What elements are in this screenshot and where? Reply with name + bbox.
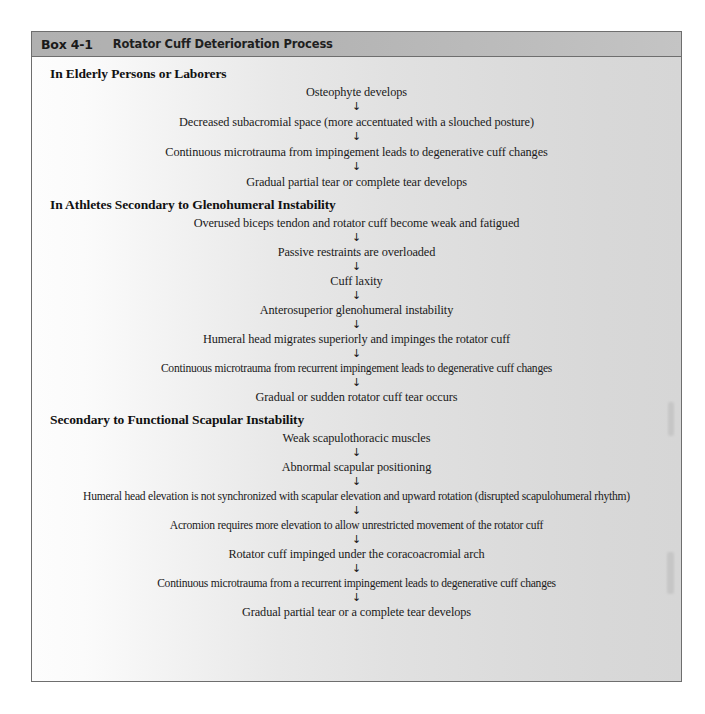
flow-step: Osteophyte develops (42, 85, 671, 100)
box-header: Box 4-1 Rotator Cuff Deterioration Proce… (32, 32, 681, 57)
down-arrow-icon: ↓ (42, 591, 671, 605)
flow-step: Continuous microtrauma from recurrent im… (42, 361, 671, 376)
flow-step: Gradual or sudden rotator cuff tear occu… (42, 390, 671, 405)
box-body: In Elderly Persons or LaborersOsteophyte… (32, 57, 681, 681)
flow-step: Overused biceps tendon and rotator cuff … (42, 216, 671, 231)
down-arrow-icon: ↓ (42, 376, 671, 390)
flow-step: Continuous microtrauma from impingement … (42, 145, 671, 160)
down-arrow-icon: ↓ (42, 130, 671, 144)
flow-step: Humeral head migrates superiorly and imp… (42, 332, 671, 347)
box-number-label: Box 4-1 (41, 37, 93, 52)
flow-step: Decreased subacromial space (more accent… (42, 115, 671, 130)
flowchart-sections: In Elderly Persons or LaborersOsteophyte… (42, 66, 671, 620)
page: Box 4-1 Rotator Cuff Deterioration Proce… (0, 0, 705, 714)
flow-step: Gradual partial tear or complete tear de… (42, 175, 671, 190)
flow-step: Humeral head elevation is not synchroniz… (42, 489, 671, 504)
flow-chain: Overused biceps tendon and rotator cuff … (42, 216, 671, 405)
down-arrow-icon: ↓ (42, 504, 671, 518)
flow-step: Continuous microtrauma from a recurrent … (42, 576, 671, 591)
figure-box: Box 4-1 Rotator Cuff Deterioration Proce… (31, 31, 682, 682)
down-arrow-icon: ↓ (42, 289, 671, 303)
flow-step: Rotator cuff impinged under the coracoac… (42, 547, 671, 562)
section-heading: In Elderly Persons or Laborers (50, 66, 671, 82)
flow-step: Abnormal scapular positioning (42, 460, 671, 475)
flow-step: Passive restraints are overloaded (42, 245, 671, 260)
flow-step: Acromion requires more elevation to allo… (42, 518, 671, 533)
section-heading: Secondary to Functional Scapular Instabi… (50, 412, 671, 428)
flow-step: Gradual partial tear or a complete tear … (42, 605, 671, 620)
flow-chain: Osteophyte develops↓Decreased subacromia… (42, 85, 671, 190)
flow-step: Weak scapulothoracic muscles (42, 431, 671, 446)
flow-section: Secondary to Functional Scapular Instabi… (42, 412, 671, 620)
flow-section: In Elderly Persons or LaborersOsteophyte… (42, 66, 671, 190)
down-arrow-icon: ↓ (42, 260, 671, 274)
down-arrow-icon: ↓ (42, 562, 671, 576)
flow-step: Cuff laxity (42, 274, 671, 289)
down-arrow-icon: ↓ (42, 160, 671, 174)
flow-step: Anterosuperior glenohumeral instability (42, 303, 671, 318)
down-arrow-icon: ↓ (42, 318, 671, 332)
down-arrow-icon: ↓ (42, 347, 671, 361)
flow-chain: Weak scapulothoracic muscles↓Abnormal sc… (42, 431, 671, 620)
down-arrow-icon: ↓ (42, 231, 671, 245)
down-arrow-icon: ↓ (42, 475, 671, 489)
box-title: Rotator Cuff Deterioration Process (113, 37, 333, 51)
down-arrow-icon: ↓ (42, 446, 671, 460)
section-heading: In Athletes Secondary to Glenohumeral In… (50, 197, 671, 213)
down-arrow-icon: ↓ (42, 100, 671, 114)
down-arrow-icon: ↓ (42, 533, 671, 547)
flow-section: In Athletes Secondary to Glenohumeral In… (42, 197, 671, 405)
